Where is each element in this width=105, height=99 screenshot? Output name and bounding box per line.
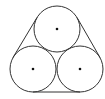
center-point-bottom-right — [79, 68, 82, 71]
center-point-top — [56, 28, 59, 31]
tangent-circles-diagram — [0, 0, 105, 99]
circles — [10, 6, 103, 92]
center-point-bottom-left — [32, 68, 35, 71]
diagram-container: Three tangent circles wrapped by a belt — [0, 0, 105, 99]
belt-segment-left — [13, 18, 37, 58]
belt-segment-right — [77, 18, 100, 58]
